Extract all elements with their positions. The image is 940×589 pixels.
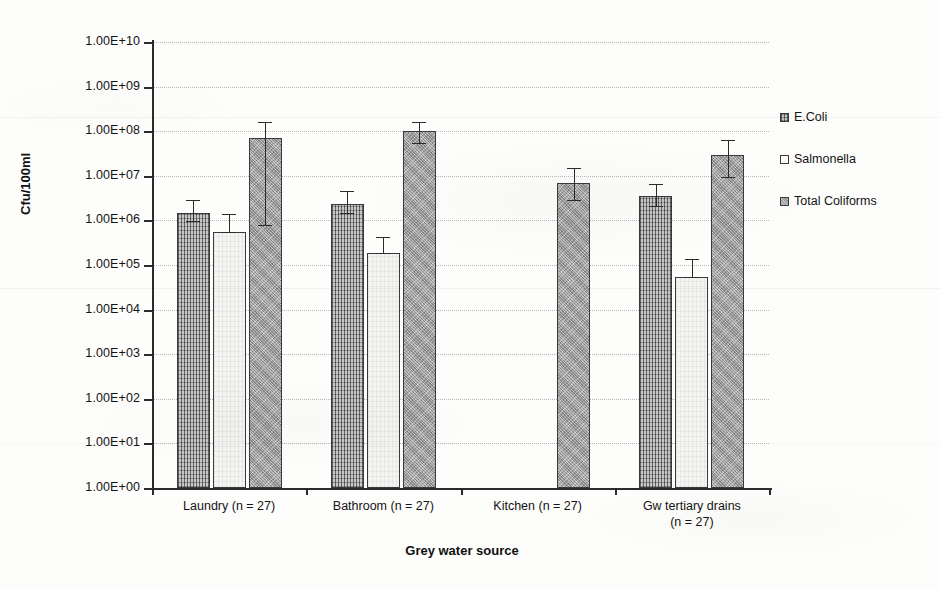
error-bar-cap-upper (649, 184, 663, 185)
y-axis-tick-label: 1.00E+05 (85, 257, 140, 271)
scan-artifact-line (0, 288, 940, 289)
x-axis-title: Grey water source (152, 543, 772, 558)
bar-e-coli-1[interactable] (331, 204, 364, 488)
y-axis-tick (144, 220, 153, 222)
legend-item-salmonella[interactable]: Salmonella (780, 152, 877, 166)
error-bar-cap-lower (376, 253, 390, 254)
y-axis-tick (144, 265, 153, 267)
x-axis-tick (461, 488, 463, 495)
error-bar-cap-upper (258, 122, 272, 123)
error-bar-cap-lower (186, 221, 200, 222)
category-label-line: Kitchen (n = 27) (461, 498, 615, 514)
legend-swatch-icon (780, 197, 789, 206)
y-axis-tick (144, 87, 153, 89)
y-axis-tick-label: 1.00E+00 (85, 480, 140, 494)
error-bar-stem (193, 200, 194, 221)
error-bar-cap-lower (567, 200, 581, 201)
error-bar-stem (383, 237, 384, 252)
x-axis-tick (615, 488, 617, 495)
gridline (152, 131, 769, 132)
plot-area (152, 42, 769, 488)
y-axis-tick-label: 1.00E+10 (85, 34, 140, 48)
y-axis-tick (144, 131, 153, 133)
chart-canvas: Cfu/100ml 1.00E+101.00E+091.00E+081.00E+… (0, 0, 940, 589)
category-label-line: Bathroom (n = 27) (306, 498, 460, 514)
error-bar-cap-upper (567, 168, 581, 169)
error-bar-cap-lower (258, 225, 272, 226)
error-bar-cap-lower (340, 213, 354, 214)
scan-artifact-line (0, 117, 940, 118)
gridline (152, 220, 769, 221)
category-label-line: (n = 27) (615, 514, 769, 530)
y-axis-tick-label: 1.00E+08 (85, 123, 140, 137)
category-label-line: Laundry (n = 27) (152, 498, 306, 514)
gridline (152, 176, 769, 177)
bar-salmonella-3[interactable] (675, 277, 708, 488)
error-bar-stem (728, 140, 729, 176)
y-axis-tick (144, 399, 153, 401)
x-axis-tick (306, 488, 308, 495)
x-axis-category-label: Bathroom (n = 27) (306, 498, 460, 514)
error-bar-cap-lower (222, 232, 236, 233)
y-axis-tick-labels: 1.00E+101.00E+091.00E+081.00E+071.00E+06… (0, 0, 140, 589)
legend-item-label: Total Coliforms (794, 194, 877, 208)
error-bar-stem (574, 168, 575, 201)
error-bar-cap-upper (186, 200, 200, 201)
error-bar-cap-upper (222, 214, 236, 215)
gridline (152, 42, 769, 43)
error-bar-stem (265, 122, 266, 225)
error-bar-stem (229, 214, 230, 232)
category-label-line: Gw tertiary drains (615, 498, 769, 514)
error-bar-cap-upper (376, 237, 390, 238)
gridline (152, 87, 769, 88)
legend-item-total-coliforms[interactable]: Total Coliforms (780, 194, 877, 208)
y-axis-tick-label: 1.00E+09 (85, 79, 140, 93)
legend-swatch-icon (780, 155, 789, 164)
y-axis-tick-label: 1.00E+07 (85, 168, 140, 182)
bar-salmonella-0[interactable] (213, 232, 246, 488)
error-bar-cap-lower (721, 177, 735, 178)
x-axis-category-label: Gw tertiary drains(n = 27) (615, 498, 769, 530)
bar-total-coliforms-1[interactable] (403, 131, 436, 488)
y-axis-tick-label: 1.00E+04 (85, 302, 140, 316)
x-axis-tick (769, 488, 771, 495)
bar-e-coli-3[interactable] (639, 196, 672, 488)
y-axis-tick (144, 42, 153, 44)
error-bar-cap-lower (412, 143, 426, 144)
error-bar-stem (419, 122, 420, 143)
y-axis-tick-label: 1.00E+06 (85, 212, 140, 226)
error-bar-cap-lower (685, 277, 699, 278)
chart-legend: E.ColiSalmonellaTotal Coliforms (780, 110, 877, 236)
error-bar-cap-upper (685, 259, 699, 260)
error-bar-cap-upper (412, 122, 426, 123)
x-axis-category-label: Kitchen (n = 27) (461, 498, 615, 514)
y-axis-tick-label: 1.00E+02 (85, 391, 140, 405)
bar-total-coliforms-3[interactable] (711, 155, 744, 488)
scan-artifact-line (0, 443, 940, 444)
error-bar-cap-upper (340, 191, 354, 192)
x-axis-tick (152, 488, 154, 495)
y-axis-tick-label: 1.00E+03 (85, 346, 140, 360)
legend-item-label: Salmonella (794, 152, 856, 166)
y-axis-tick (144, 310, 153, 312)
error-bar-stem (656, 184, 657, 206)
error-bar-cap-upper (721, 140, 735, 141)
y-axis-tick (144, 176, 153, 178)
error-bar-cap-lower (649, 206, 663, 207)
error-bar-stem (692, 259, 693, 276)
x-axis-category-label: Laundry (n = 27) (152, 498, 306, 514)
y-axis-tick (144, 354, 153, 356)
bar-e-coli-0[interactable] (177, 213, 210, 488)
error-bar-stem (347, 191, 348, 212)
